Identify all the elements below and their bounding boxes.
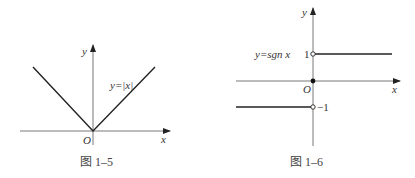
figure-caption: 图 1–6: [290, 155, 323, 169]
tick-label-1: 1: [304, 48, 310, 60]
closed-point-origin: [311, 79, 316, 84]
x-axis-label: x: [391, 83, 397, 95]
tick-label-neg1: −1: [317, 101, 329, 113]
x-axis-label: x: [160, 133, 166, 145]
open-point-1: [311, 52, 315, 56]
origin-label: O: [83, 134, 91, 146]
y-axis-label: y: [81, 45, 87, 57]
figures-canvas: y x O y=|x| 图 1–5 y x O 1 −1 y=sgn x 图 1…: [0, 0, 415, 178]
function-label: y=sgn x: [254, 48, 290, 60]
abs-curve: [33, 67, 155, 131]
open-point-neg1: [311, 105, 315, 109]
figure-caption: 图 1–5: [80, 155, 113, 169]
origin-label: O: [303, 83, 311, 95]
figure-sign-function: y x O 1 −1 y=sgn x 图 1–6: [236, 6, 400, 169]
function-label: y=|x|: [109, 79, 133, 91]
figure-abs-function: y x O y=|x| 图 1–5: [20, 45, 170, 169]
y-axis-label: y: [301, 6, 307, 18]
